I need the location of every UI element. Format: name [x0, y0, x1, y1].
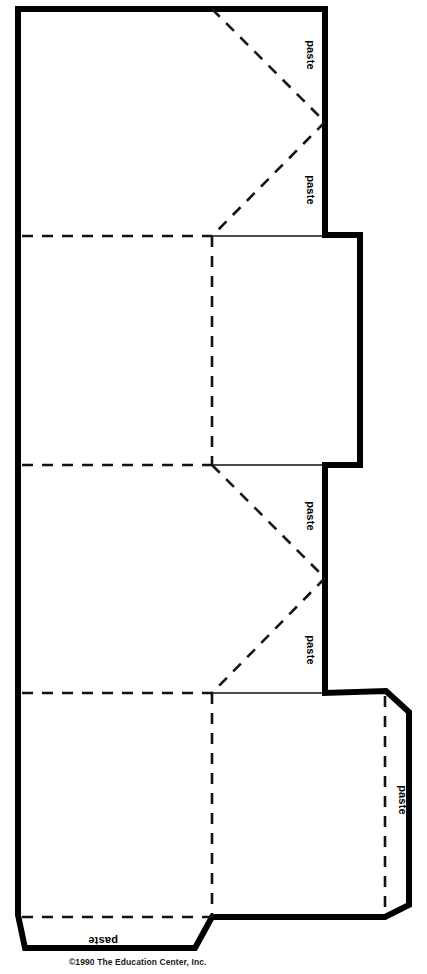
paste-tab-4-label: paste: [305, 635, 317, 665]
paste-label-group: paste paste paste paste paste paste: [88, 40, 409, 947]
craft-template-page: paste paste paste paste paste paste ©199…: [0, 0, 427, 974]
paste-tab-2-label: paste: [305, 175, 317, 205]
cut-outline: [18, 9, 409, 948]
copyright-notice: ©1990 The Education Center, Inc.: [69, 957, 206, 967]
net-diagram: paste paste paste paste paste paste: [0, 0, 427, 974]
paste-tab-6-label: paste: [88, 935, 118, 947]
paste-tab-1-label: paste: [305, 40, 317, 70]
paste-tab-5-label: paste: [397, 785, 409, 815]
cut-outline-group: [18, 9, 409, 948]
paste-tab-3-label: paste: [305, 501, 317, 531]
